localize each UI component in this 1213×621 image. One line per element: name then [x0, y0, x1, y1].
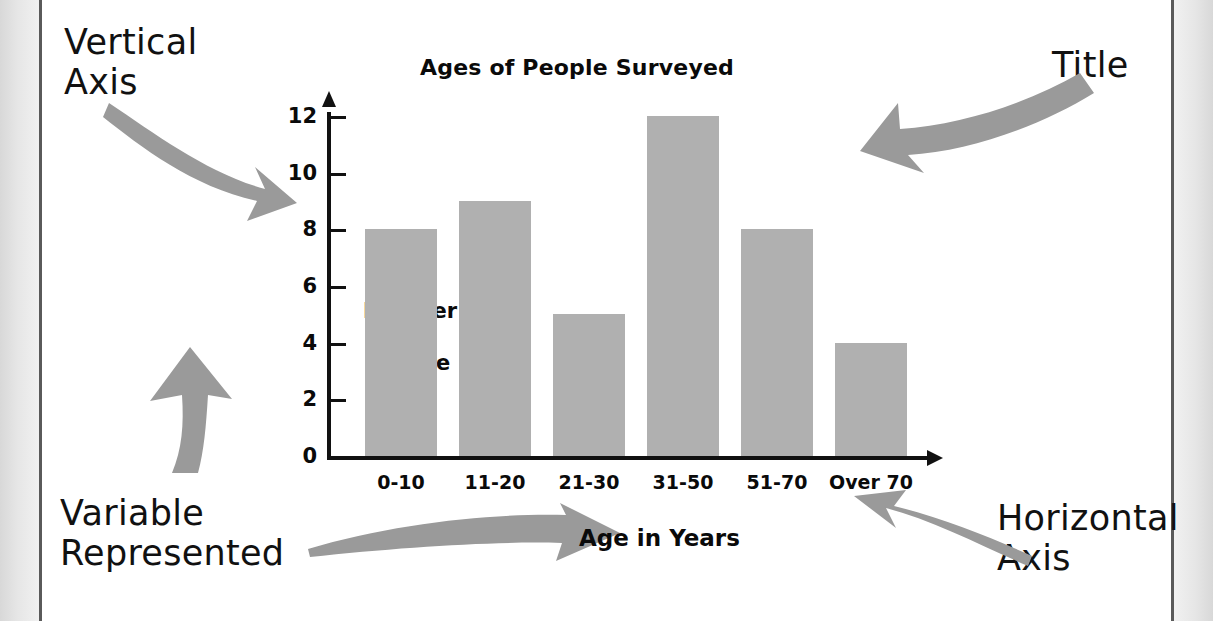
page-right-margin [1174, 0, 1213, 621]
x-tick-label: 11-20 [465, 471, 526, 493]
y-tick-label: 12 [288, 104, 317, 128]
x-axis-label: Age in Years [579, 525, 740, 551]
y-tick-label: 8 [302, 217, 317, 241]
y-tick-label: 4 [302, 331, 317, 355]
bar [741, 229, 813, 456]
y-tick-label: 6 [302, 274, 317, 298]
plot-area: 024681012 0-1011-2021-3031-5051-70Over 7… [327, 105, 947, 460]
x-tick-label: 51-70 [747, 471, 808, 493]
chart-title: Ages of People Surveyed [257, 55, 897, 80]
bar [647, 116, 719, 456]
arrow-x-axis-label-icon [304, 503, 624, 569]
annotation-vertical-axis: Vertical Axis [64, 22, 197, 102]
x-tick-label: 0-10 [377, 471, 425, 493]
page-left-margin [0, 0, 39, 621]
bar-chart: Ages of People Surveyed Number of People… [257, 55, 957, 475]
x-tick-label: 31-50 [653, 471, 714, 493]
y-tick-mark [331, 116, 346, 119]
y-tick-label: 2 [302, 387, 317, 411]
x-tick-label: Over 70 [829, 471, 913, 493]
x-tick-label: 21-30 [559, 471, 620, 493]
scanned-page: Vertical Axis Title Variable Represented… [0, 0, 1213, 621]
figure-content: Vertical Axis Title Variable Represented… [42, 0, 1171, 621]
y-tick-mark [331, 399, 346, 402]
arrow-variable-up-icon [142, 345, 238, 475]
y-tick-label: 0 [302, 444, 317, 468]
x-axis-line [327, 456, 931, 460]
y-tick-mark [331, 343, 346, 346]
y-axis-arrowhead-icon [322, 91, 336, 107]
bar [835, 343, 907, 456]
arrow-horizontal-axis-icon [832, 490, 1032, 576]
bar [553, 314, 625, 456]
annotation-variable-represented: Variable Represented [60, 493, 284, 573]
bar [365, 229, 437, 456]
y-tick-mark [331, 229, 346, 232]
x-axis-arrowhead-icon [927, 450, 943, 466]
y-tick-mark [331, 173, 346, 176]
y-tick-label: 10 [288, 161, 317, 185]
y-tick-mark [331, 286, 346, 289]
bar [459, 201, 531, 456]
